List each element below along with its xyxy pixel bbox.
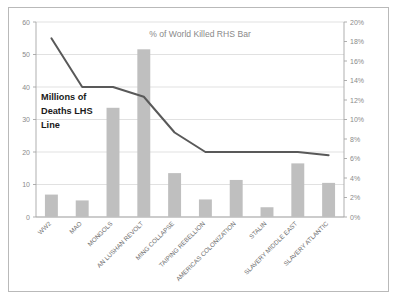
left-axis-tick-label: 30	[22, 116, 30, 123]
bar	[107, 108, 120, 217]
combo-chart: 0102030405060 0%2%4%6%8%10%12%14%16%18%2…	[0, 0, 397, 300]
left-axis-tick-label: 10	[22, 181, 30, 188]
line-series	[51, 38, 328, 155]
bar	[76, 200, 89, 217]
right-axis-tick-label: 16%	[350, 58, 364, 65]
right-axis-tick-label: 10%	[350, 116, 364, 123]
category-label: MAO	[68, 220, 83, 235]
line-path	[51, 38, 328, 155]
category-label: AMERICAS COLONIZATION	[174, 219, 237, 282]
left-axis-tick-label: 0	[26, 214, 30, 221]
category-label: WW2	[36, 219, 52, 235]
right-axis-tick-labels: 0%2%4%6%8%10%12%14%16%18%20%	[350, 19, 364, 221]
right-axis-tick-label: 0%	[350, 214, 360, 221]
bar-series	[45, 49, 335, 217]
chart-container: 0102030405060 0%2%4%6%8%10%12%14%16%18%2…	[0, 0, 397, 300]
bar	[322, 183, 335, 217]
category-label: MONGOLS	[86, 220, 114, 248]
right-axis-tick-label: 2%	[350, 194, 360, 201]
right-axis-tick-label: 4%	[350, 175, 360, 182]
category-label: SLAVERY MIDDLE EAST	[243, 220, 299, 276]
bar	[45, 195, 58, 217]
chart-title: % of World Killed RHS Bar	[149, 29, 251, 39]
annotation-line: Millions of	[41, 92, 87, 102]
category-labels: WW2MAOMONGOLSAN LUSHAN REVOLTMING COLLAP…	[36, 219, 329, 282]
left-axis-tick-label: 50	[22, 51, 30, 58]
left-axis-tick-label: 60	[22, 19, 30, 26]
right-axis-tick-label: 12%	[350, 97, 364, 104]
left-axis-tick-label: 20	[22, 149, 30, 156]
bar	[168, 173, 181, 217]
right-axis-tick-label: 6%	[350, 155, 360, 162]
bar	[291, 163, 304, 217]
right-axis-tick-label: 14%	[350, 77, 364, 84]
left-axis-tick-label: 40	[22, 84, 30, 91]
annotation-line: Deaths LHS	[41, 106, 93, 116]
bar	[261, 207, 274, 217]
bar	[199, 199, 212, 217]
category-label: STALIN	[247, 219, 268, 240]
left-axis-tick-labels: 0102030405060	[22, 19, 30, 221]
bar	[230, 180, 243, 217]
line-series-annotation: Millions ofDeaths LHSLine	[41, 92, 93, 130]
bar	[137, 49, 150, 217]
annotation-line: Line	[41, 120, 60, 130]
right-axis-tick-label: 20%	[350, 19, 364, 26]
right-axis-tick-label: 18%	[350, 38, 364, 45]
right-axis-tick-label: 8%	[350, 136, 360, 143]
